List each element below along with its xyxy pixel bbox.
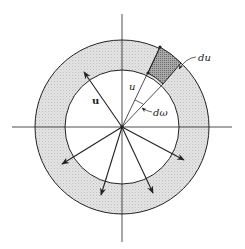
point-outer — [158, 45, 161, 48]
diagram-canvas: u u du dω — [0, 0, 245, 249]
label-vector-u: u — [92, 95, 99, 106]
label-du: du — [198, 52, 211, 63]
label-d-omega: dω — [153, 107, 168, 118]
origin-point — [120, 125, 124, 129]
point-inner — [146, 71, 149, 74]
label-magnitude-u: u — [129, 81, 135, 92]
